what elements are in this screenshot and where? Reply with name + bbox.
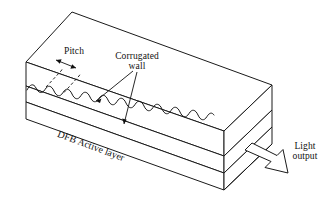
light-output-label-line2: output	[293, 151, 318, 161]
light-output-label: Light output	[283, 141, 327, 162]
corrugated-wall-label-line1: Corrugated	[115, 51, 159, 61]
dfb-laser-figure: Pitch Corrugated wall DFB Active layer L…	[0, 0, 330, 221]
diagram-canvas	[0, 0, 330, 221]
light-output-label-line1: Light	[294, 141, 315, 151]
corrugated-wall-label-line2: wall	[129, 61, 146, 71]
pitch-label: Pitch	[64, 46, 84, 56]
corrugated-wall-label: Corrugated wall	[106, 51, 168, 72]
